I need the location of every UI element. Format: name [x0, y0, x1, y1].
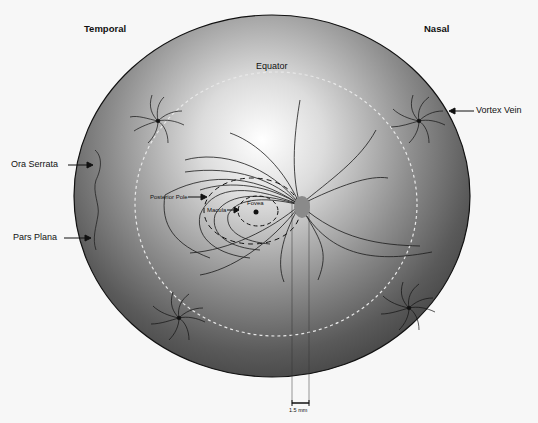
vortex-vein-label: Vortex Vein: [476, 106, 522, 115]
fovea-dot: [254, 210, 259, 215]
optic-disc: [294, 196, 310, 218]
temporal-label: Temporal: [84, 24, 126, 34]
pars-plana-label: Pars Plana: [13, 233, 57, 242]
equator-label: Equator: [256, 62, 288, 71]
nasal-label: Nasal: [424, 24, 449, 34]
macula-label: Macula: [207, 207, 226, 213]
ora-serrata-label: Ora Serrata: [11, 160, 58, 169]
posterior-pole-label: Posterior Pole: [150, 194, 188, 200]
scale-bar-label: 1.5 mm: [289, 408, 307, 414]
fovea-label: Fovea: [247, 200, 264, 206]
diagram-canvas: Temporal Nasal Equator Vortex Vein Ora S…: [0, 0, 538, 423]
